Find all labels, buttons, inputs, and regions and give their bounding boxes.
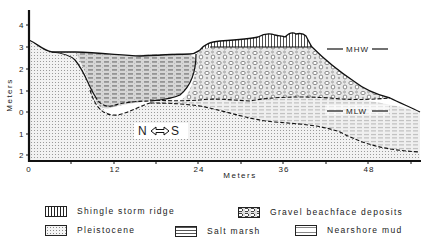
direction-north: N <box>138 124 147 138</box>
x-axis-ticks: 0 12 24 36 48 <box>26 165 374 174</box>
gravel-beachface-layer <box>180 47 390 101</box>
svg-text:36: 36 <box>279 165 290 174</box>
svg-text:3: 3 <box>19 43 24 52</box>
legend: Shingle storm ridge Gravel beachface dep… <box>0 196 425 244</box>
legend-item-mud: Nearshore mud <box>295 224 402 236</box>
svg-text:4: 4 <box>19 21 24 30</box>
shingle-swatch-icon <box>45 206 67 217</box>
svg-text:12: 12 <box>110 165 121 174</box>
cross-section-figure: N S MHW MLW 4 3 2 1 0 1 2 Meters 0 12 <box>0 0 425 244</box>
y-axis-ticks: 4 3 2 1 0 1 2 <box>19 21 24 160</box>
svg-text:2: 2 <box>19 65 24 74</box>
saltmarsh-swatch-icon <box>175 226 197 237</box>
pleistocene-swatch-icon <box>45 225 67 236</box>
legend-item-saltmarsh: Salt marsh <box>175 225 261 237</box>
svg-text:1: 1 <box>19 87 24 96</box>
legend-item-gravel: Gravel beachface deposits <box>238 206 403 218</box>
svg-text:24: 24 <box>194 165 205 174</box>
legend-item-pleistocene: Pleistocene <box>45 224 135 236</box>
svg-text:1: 1 <box>19 130 24 139</box>
direction-south: S <box>171 124 179 138</box>
mhw-label: MHW <box>346 45 369 54</box>
cross-section-diagram: N S MHW MLW 4 3 2 1 0 1 2 Meters 0 12 <box>0 0 425 196</box>
legend-item-shingle: Shingle storm ridge <box>45 205 175 217</box>
mud-swatch-icon <box>295 225 317 236</box>
svg-text:0: 0 <box>26 165 31 174</box>
mlw-label: MLW <box>346 107 367 116</box>
y-axis-title: Meters <box>5 78 14 111</box>
svg-text:2: 2 <box>19 151 24 160</box>
x-axis-title: Meters <box>223 171 256 180</box>
gravel-swatch-icon <box>238 207 260 218</box>
svg-text:0: 0 <box>19 108 24 117</box>
svg-text:48: 48 <box>364 165 375 174</box>
